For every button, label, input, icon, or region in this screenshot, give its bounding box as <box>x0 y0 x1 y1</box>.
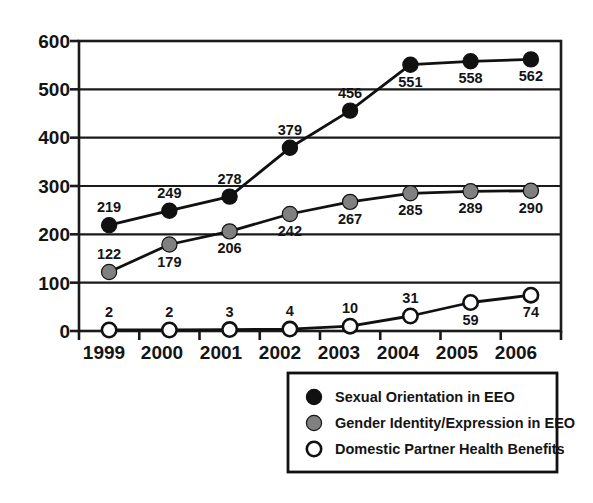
data-point-label: 31 <box>402 290 418 306</box>
data-point-label: 2 <box>165 304 173 320</box>
data-point-label: 249 <box>157 185 181 201</box>
data-point-label: 558 <box>458 70 482 86</box>
data-point-marker[interactable] <box>463 184 478 199</box>
legend-label: Gender Identity/Expression in EEO <box>335 415 575 431</box>
y-tick-label-400: 400 <box>38 127 70 148</box>
data-point-marker[interactable] <box>463 54 478 69</box>
x-tick-label-2006: 2006 <box>495 342 537 363</box>
chart-legend: Sexual Orientation in EEOGender Identity… <box>288 373 575 472</box>
data-point-marker[interactable] <box>222 322 236 336</box>
data-point-marker[interactable] <box>162 323 176 337</box>
data-point-marker[interactable] <box>403 57 418 72</box>
data-point-label: 379 <box>278 122 302 138</box>
data-point-marker[interactable] <box>403 186 418 201</box>
data-point-label: 219 <box>97 199 121 215</box>
data-point-label: 2 <box>105 304 113 320</box>
data-point-marker[interactable] <box>343 103 358 118</box>
data-point-label: 206 <box>217 240 241 256</box>
x-tick-label-2001: 2001 <box>200 342 243 363</box>
data-point-marker[interactable] <box>282 140 297 155</box>
data-point-marker[interactable] <box>343 319 357 333</box>
data-point-label: 59 <box>463 312 479 328</box>
x-tick-label-2000: 2000 <box>141 342 183 363</box>
data-point-label: 242 <box>278 223 302 239</box>
data-point-label: 456 <box>338 85 362 101</box>
data-point-marker[interactable] <box>222 189 237 204</box>
data-point-label: 179 <box>157 254 181 270</box>
legend-marker-open-circle-icon[interactable] <box>307 442 321 456</box>
data-point-marker[interactable] <box>102 264 117 279</box>
data-point-label: 551 <box>398 74 422 90</box>
x-tick-label-2004: 2004 <box>377 342 420 363</box>
data-point-label: 4 <box>286 303 294 319</box>
data-point-marker[interactable] <box>162 237 177 252</box>
y-tick-label-0: 0 <box>59 321 70 342</box>
data-point-marker[interactable] <box>403 309 417 323</box>
data-point-marker[interactable] <box>463 295 477 309</box>
data-point-label: 290 <box>519 200 543 216</box>
data-point-marker[interactable] <box>102 218 117 233</box>
data-point-label: 3 <box>226 304 234 320</box>
data-point-marker[interactable] <box>524 288 538 302</box>
x-tick-label-2002: 2002 <box>259 342 301 363</box>
legend-marker-filled-circle-icon[interactable] <box>306 389 321 404</box>
data-point-marker[interactable] <box>283 322 297 336</box>
data-point-marker[interactable] <box>162 203 177 218</box>
data-point-marker[interactable] <box>102 323 116 337</box>
legend-label: Domestic Partner Health Benefits <box>335 441 565 457</box>
chart-container: 600 500 400 300 200 100 0 1999 2000 2001… <box>0 0 593 503</box>
line-chart: 600 500 400 300 200 100 0 1999 2000 2001… <box>0 0 593 503</box>
data-point-label: 278 <box>217 171 241 187</box>
data-point-marker[interactable] <box>523 52 538 67</box>
y-tick-label-600: 600 <box>38 31 70 52</box>
data-point-marker[interactable] <box>523 183 538 198</box>
data-point-label: 122 <box>97 246 121 262</box>
data-point-marker[interactable] <box>222 224 237 239</box>
y-tick-label-500: 500 <box>38 79 70 100</box>
data-point-marker[interactable] <box>282 206 297 221</box>
data-point-label: 562 <box>519 68 543 84</box>
x-tick-label-2003: 2003 <box>318 342 360 363</box>
data-point-label: 267 <box>338 211 362 227</box>
data-point-label: 289 <box>458 200 482 216</box>
data-point-label: 10 <box>342 300 358 316</box>
data-point-label: 74 <box>523 304 539 320</box>
legend-marker-filled-circle-icon[interactable] <box>306 415 321 430</box>
x-tick-label-1999: 1999 <box>83 342 125 363</box>
data-point-marker[interactable] <box>343 194 358 209</box>
x-tick-label-2005: 2005 <box>436 342 479 363</box>
data-point-label: 285 <box>398 202 422 218</box>
y-tick-label-300: 300 <box>38 176 70 197</box>
y-tick-label-200: 200 <box>38 224 70 245</box>
y-tick-label-100: 100 <box>38 273 70 294</box>
legend-label: Sexual Orientation in EEO <box>335 389 515 405</box>
